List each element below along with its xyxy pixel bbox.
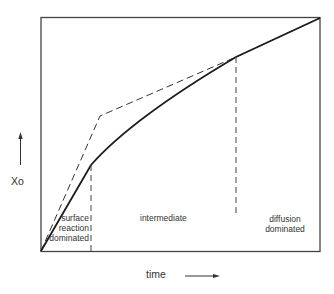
region-1-line-2: reaction [59,223,89,233]
region-3-line-2: dominated [257,224,313,234]
region-label-intermediate: intermediate [140,213,187,223]
x-axis-arrow-icon [185,274,220,278]
x-axis-label: time [146,268,166,280]
region-1-line-3: dominated [49,233,89,243]
region-3-line-1: diffusion [257,214,313,224]
y-axis-label: Xo [11,175,24,187]
region-1-line-1: surface [61,213,89,223]
oxidation-diagram [0,0,334,294]
y-axis-arrow-icon [18,132,22,165]
